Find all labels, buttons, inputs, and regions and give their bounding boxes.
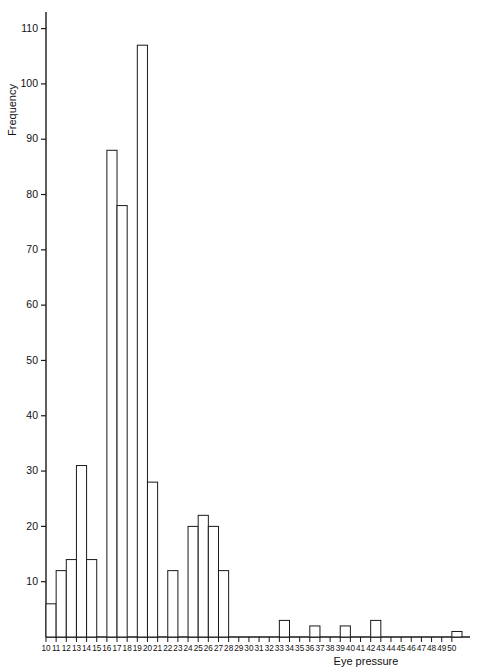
x-tick-label: 39 <box>336 644 346 653</box>
x-tick-label: 21 <box>153 644 163 653</box>
x-tick-label: 15 <box>92 644 102 653</box>
histogram-bar <box>208 526 218 637</box>
histogram-bar <box>198 515 208 637</box>
x-axis-title: Eye pressure <box>334 655 399 667</box>
x-tick-label: 27 <box>214 644 224 653</box>
x-tick-label: 23 <box>173 644 183 653</box>
x-tick-label: 28 <box>224 644 234 653</box>
x-tick-label: 34 <box>285 644 295 653</box>
x-tick-label: 36 <box>305 644 315 653</box>
x-tick-label: 50 <box>447 644 457 653</box>
histogram-bar <box>452 631 462 637</box>
y-tick-label: 100 <box>20 77 38 89</box>
histogram-bar <box>137 45 147 637</box>
histogram-bar <box>76 466 86 637</box>
x-tick-label: 31 <box>255 644 265 653</box>
y-tick-label: 110 <box>21 22 38 34</box>
x-tick-label: 43 <box>376 644 386 653</box>
bars-group <box>46 45 462 637</box>
x-tick-label: 33 <box>275 644 285 653</box>
x-tick-label: 14 <box>82 644 92 653</box>
x-tick-label: 47 <box>417 644 427 653</box>
x-tick-label: 44 <box>386 644 396 653</box>
x-tick-label: 22 <box>163 644 173 653</box>
x-tick-label: 25 <box>194 644 204 653</box>
histogram-figure: 102030405060708090100110 101112131415161… <box>0 0 480 672</box>
x-tick-label: 37 <box>315 644 325 653</box>
x-tick-label: 32 <box>265 644 275 653</box>
histogram-bar <box>371 620 381 637</box>
histogram-bar <box>340 626 350 637</box>
y-axis-title: Frequency <box>6 84 18 136</box>
x-tick-label: 19 <box>133 644 143 653</box>
x-tick-label: 20 <box>143 644 153 653</box>
y-tick-label: 40 <box>26 409 38 421</box>
x-tick-label: 48 <box>427 644 437 653</box>
histogram-bar <box>46 604 56 637</box>
x-tick-label: 40 <box>346 644 356 653</box>
x-tick-label: 26 <box>204 644 214 653</box>
histogram-bar <box>310 626 320 637</box>
x-axis-ticks: 1011121314151617181920212223242526272829… <box>41 637 456 653</box>
histogram-bar <box>107 150 117 637</box>
histogram-bar <box>168 571 178 637</box>
y-tick-label: 30 <box>26 464 38 476</box>
x-tick-label: 10 <box>41 644 51 653</box>
histogram-bar <box>147 482 157 637</box>
x-tick-label: 30 <box>244 644 254 653</box>
y-axis-ticks: 102030405060708090100110 <box>20 22 46 587</box>
y-tick-label: 80 <box>26 188 38 200</box>
x-tick-label: 35 <box>295 644 305 653</box>
x-tick-label: 29 <box>234 644 244 653</box>
x-tick-label: 17 <box>112 644 122 653</box>
x-tick-label: 46 <box>407 644 417 653</box>
y-tick-label: 70 <box>26 243 38 255</box>
histogram-bar <box>87 560 97 637</box>
y-tick-label: 60 <box>26 298 38 310</box>
x-tick-label: 16 <box>102 644 112 653</box>
histogram-bar <box>117 206 127 637</box>
histogram-bar <box>188 526 198 637</box>
x-tick-label: 24 <box>183 644 193 653</box>
histogram-bar <box>66 560 76 637</box>
histogram-bar <box>56 571 66 637</box>
histogram-bar <box>218 571 228 637</box>
y-tick-label: 10 <box>26 575 38 587</box>
y-tick-label: 90 <box>26 132 38 144</box>
x-tick-label: 18 <box>123 644 133 653</box>
x-tick-label: 11 <box>52 644 61 653</box>
x-tick-label: 12 <box>62 644 72 653</box>
y-tick-label: 20 <box>26 520 38 532</box>
histogram-chart: 102030405060708090100110 101112131415161… <box>0 0 480 672</box>
y-tick-label: 50 <box>26 354 38 366</box>
histogram-bar <box>279 620 289 637</box>
x-tick-label: 38 <box>326 644 336 653</box>
x-tick-label: 41 <box>356 644 366 653</box>
x-tick-label: 13 <box>72 644 82 653</box>
x-tick-label: 49 <box>437 644 447 653</box>
x-tick-label: 42 <box>366 644 376 653</box>
x-tick-label: 45 <box>397 644 407 653</box>
